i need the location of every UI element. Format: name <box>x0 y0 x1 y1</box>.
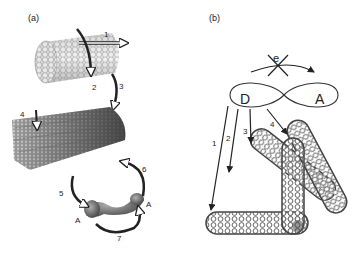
arrow-1-label: 1 <box>104 30 109 39</box>
arrow-3-label: 3 <box>119 82 124 91</box>
arrow-b4-label: 4 <box>270 120 275 129</box>
arrow-5-icon <box>72 176 85 205</box>
arrow-b1-icon <box>211 106 228 210</box>
panel-a: (a) 1 2 3 4 <box>12 13 152 243</box>
molecule-acceptor-label-right: A <box>146 200 152 209</box>
electron-label: e <box>273 52 279 64</box>
arrow-3-icon <box>112 74 117 106</box>
molecule-icon <box>84 193 144 218</box>
arrow-b3-label: 3 <box>243 127 248 136</box>
molecule-acceptor-label-left: A <box>75 216 81 225</box>
arrow-5-label: 5 <box>59 189 64 198</box>
arrow-2-label: 2 <box>92 83 97 92</box>
panel-b: (b) e D A 1 2 3 4 <box>206 13 351 234</box>
figure-canvas: (a) 1 2 3 4 <box>0 0 356 253</box>
arrow-6-icon <box>124 162 144 196</box>
arrow-4-label: 4 <box>20 110 25 119</box>
figure: (a) 1 2 3 4 <box>0 0 356 253</box>
single-nanotube-icon <box>35 33 119 83</box>
acceptor-label: A <box>315 91 325 107</box>
panel-b-label: (b) <box>209 13 220 23</box>
arrow-7-label: 7 <box>117 234 122 243</box>
nanotube-bundle-icon <box>12 107 125 170</box>
arrow-6-label: 6 <box>142 165 147 174</box>
arrow-b2-label: 2 <box>226 134 231 143</box>
donor-label: D <box>240 91 250 107</box>
nanotube-orientation-4 <box>282 138 304 234</box>
arrow-4-icon <box>36 110 37 126</box>
arrow-b1-label: 1 <box>212 139 217 148</box>
panel-a-label: (a) <box>28 13 39 23</box>
